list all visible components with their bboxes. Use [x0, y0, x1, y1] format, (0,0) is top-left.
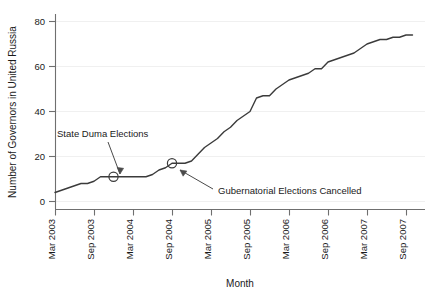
x-axis-title: Month [226, 278, 254, 289]
x-tick-label-5: Sep 2005 [241, 219, 252, 260]
x-tick-label-3: Sep 2004 [163, 219, 174, 260]
y-tick-label-80: 80 [34, 16, 45, 27]
y-axis-title: Number of Governors in United Russia [7, 26, 18, 198]
y-tick-label-0: 0 [40, 196, 45, 207]
chart-figure: 80 60 40 20 0 Number of Governors in Uni… [0, 0, 435, 294]
x-tick-label-9: Sep 2007 [397, 219, 408, 260]
x-tick-label-2: Mar 2004 [124, 219, 135, 259]
annotation-label-1: Gubernatorial Elections Cancelled [218, 185, 362, 196]
y-tick-label-20: 20 [34, 151, 45, 162]
x-tick-label-8: Mar 2007 [358, 219, 369, 259]
x-tick-label-4: Mar 2005 [202, 219, 213, 259]
x-tick-label-1: Sep 2003 [85, 219, 96, 260]
annotation-label-0: State Duma Elections [57, 128, 149, 139]
y-tick-label-60: 60 [34, 61, 45, 72]
y-tick-label-40: 40 [34, 106, 45, 117]
x-tick-label-6: Mar 2006 [280, 219, 291, 259]
x-tick-label-0: Mar 2003 [46, 219, 57, 259]
x-tick-label-7: Sep 2006 [319, 219, 330, 260]
